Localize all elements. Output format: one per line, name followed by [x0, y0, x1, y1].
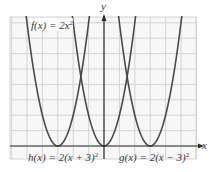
- grid: [10, 17, 196, 159]
- g-label: g(x) = 2(x − 3)2: [119, 150, 189, 163]
- h-label: h(x) = 2(x + 3)2: [28, 150, 98, 163]
- g-label-exponent: 2: [186, 151, 190, 159]
- f-label-main: f(x) = 2x: [31, 19, 70, 31]
- y-axis-label: y: [101, 1, 106, 12]
- f-label-exponent: 2: [70, 19, 74, 27]
- f-label: f(x) = 2x2: [31, 18, 73, 31]
- h-label-main: h(x) = 2(x + 3): [28, 151, 95, 163]
- x-axis-label: x: [202, 140, 207, 151]
- g-label-main: g(x) = 2(x − 3): [119, 151, 186, 163]
- h-label-exponent: 2: [95, 151, 99, 159]
